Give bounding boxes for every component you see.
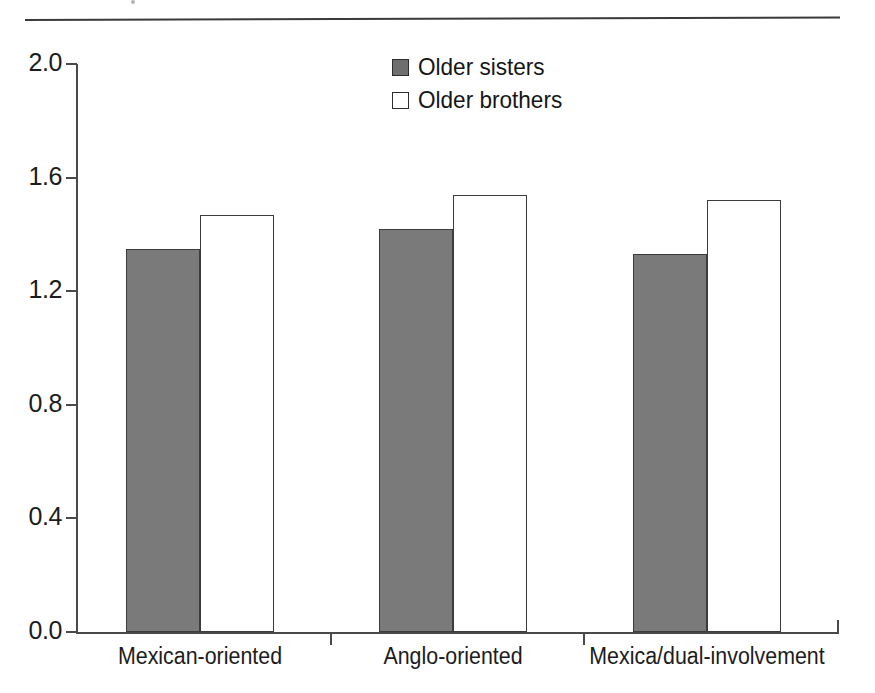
bar-older-brothers bbox=[200, 215, 274, 632]
y-axis-tick-label: 1.6 bbox=[0, 164, 62, 189]
y-axis-tick-label: 0.8 bbox=[0, 391, 62, 416]
y-axis-tick-label: 2.0 bbox=[0, 50, 62, 75]
bar-older-sisters bbox=[633, 254, 707, 632]
y-axis-tick-label: 0.4 bbox=[0, 504, 62, 529]
legend-label-older-brothers: Older brothers bbox=[418, 88, 562, 112]
bar-older-brothers bbox=[453, 195, 527, 632]
bar-older-sisters bbox=[126, 249, 200, 632]
bar-chart: 2.01.61.20.80.40.0 Mexican-orientedAnglo… bbox=[0, 0, 875, 693]
legend-item-older-sisters: Older sisters bbox=[392, 52, 571, 82]
x-axis-line bbox=[76, 632, 839, 634]
y-axis-tick-label: 0.0 bbox=[0, 618, 62, 643]
legend-swatch-icon-older-brothers bbox=[392, 92, 409, 109]
bar-older-brothers bbox=[707, 200, 781, 632]
y-axis-tick-mark bbox=[66, 177, 77, 179]
legend-label-older-sisters: Older sisters bbox=[418, 55, 545, 79]
legend-item-older-brothers: Older brothers bbox=[392, 85, 571, 115]
y-axis-tick-mark bbox=[66, 517, 77, 519]
legend-swatch-icon-older-sisters bbox=[392, 59, 409, 76]
bar-older-sisters bbox=[379, 229, 453, 632]
x-axis-end-tick bbox=[837, 620, 839, 634]
x-axis-category-label: Mexica/dual-involvement bbox=[521, 644, 875, 669]
chart-legend: Older sisters Older brothers bbox=[392, 52, 571, 118]
y-axis-tick-mark bbox=[66, 63, 77, 65]
y-axis-line bbox=[76, 64, 78, 634]
y-axis-tick-mark bbox=[66, 290, 77, 292]
y-axis-tick-label: 1.2 bbox=[0, 277, 62, 302]
y-axis-tick-mark bbox=[66, 404, 77, 406]
y-axis-tick-mark bbox=[66, 631, 77, 633]
